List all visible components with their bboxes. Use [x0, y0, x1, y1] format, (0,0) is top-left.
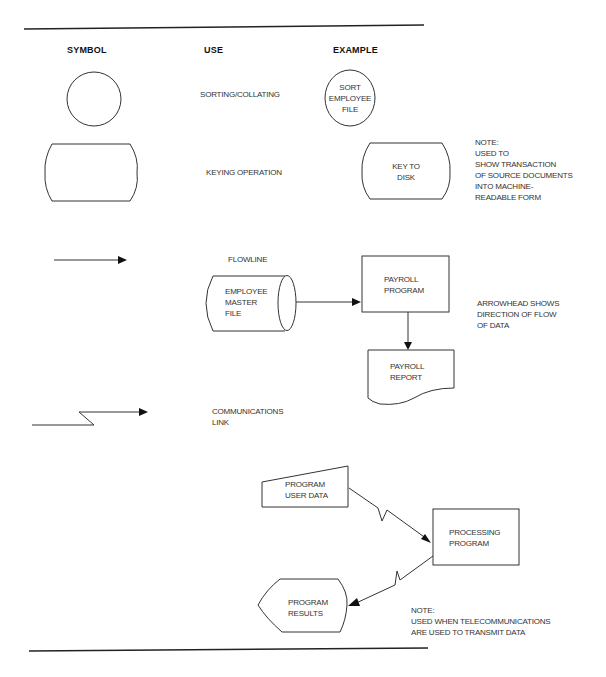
comm-link-out-line [354, 556, 433, 604]
keying-operation-symbol [45, 144, 137, 201]
example-processing-program: PROCESSING PROGRAM [449, 527, 500, 549]
comm-link-out-arrowhead-icon [348, 598, 360, 606]
use-flowline-label: FLOWLINE [228, 254, 267, 265]
use-keying-label: KEYING OPERATION [206, 167, 282, 178]
note-keying: NOTE: USED TO SHOW TRANSACTION OF SOURCE… [475, 137, 573, 203]
example-payroll-report: PAYROLL REPORT [390, 361, 424, 383]
sorting-circle-symbol [67, 72, 121, 126]
example-key-to-disk: KEY TO DISK [376, 161, 436, 183]
master-file-cylinder-end [278, 276, 296, 331]
flowchart-symbols-diagram [0, 0, 606, 677]
example-payroll-program: PAYROLL PROGRAM [384, 274, 424, 296]
bottom-rule [29, 648, 428, 651]
note-flowline: ARROWHEAD SHOWS DIRECTION OF FLOW OF DAT… [477, 298, 559, 331]
example-employee-master-file: EMPLOYEE MASTER FILE [225, 286, 267, 319]
header-use: USE [204, 45, 223, 55]
header-symbol: SYMBOL [67, 45, 107, 55]
use-communications-link-label: COMMUNICATIONS LINK [212, 406, 283, 428]
header-example: EXAMPLE [333, 45, 378, 55]
flow-arrowhead-icon [352, 298, 361, 306]
flow-arrow-down-icon [404, 342, 412, 350]
note-communications: NOTE: USED WHEN TELECOMMUNICATIONS ARE U… [411, 605, 550, 638]
flowline-arrowhead-icon [118, 256, 127, 264]
example-sort-employee-file: SORT EMPLOYEE FILE [322, 82, 378, 115]
top-rule [24, 25, 424, 29]
comm-link-in-line [349, 488, 427, 539]
comm-link-arrowhead-icon [139, 408, 148, 416]
example-program-user-data: PROGRAM USER DATA [285, 479, 328, 501]
comm-link-symbol-line [32, 412, 140, 425]
use-sorting-label: SORTING/COLLATING [200, 89, 280, 100]
example-program-results: PROGRAM RESULTS [288, 597, 328, 619]
